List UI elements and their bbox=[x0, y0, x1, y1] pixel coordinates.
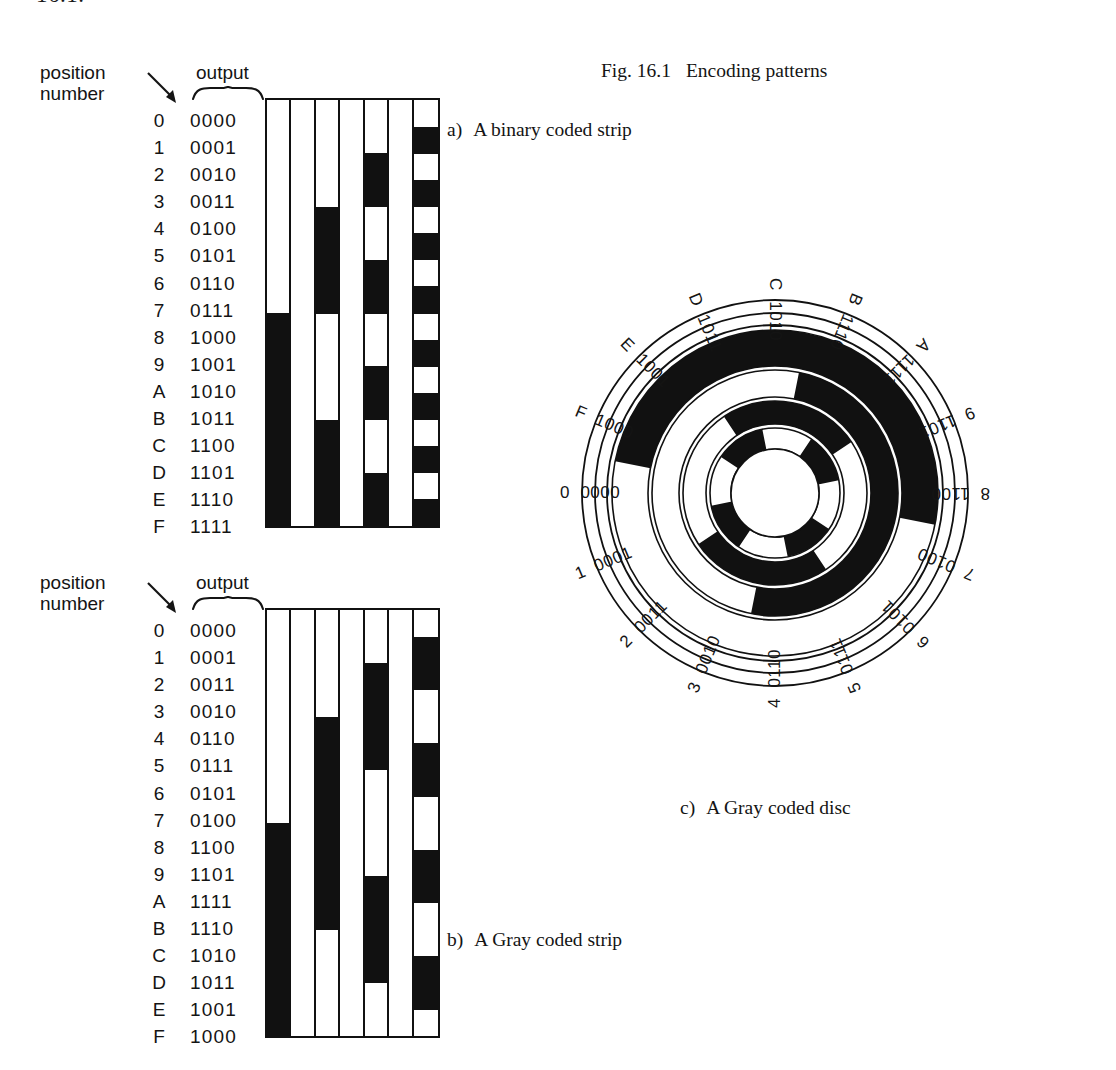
row-position-number: 2 bbox=[148, 671, 170, 698]
row-output-code: 1001 bbox=[190, 996, 237, 1023]
track-cell bbox=[365, 903, 387, 930]
track-cell bbox=[316, 743, 338, 770]
row-position-number: 4 bbox=[148, 215, 170, 242]
row-position-number: 9 bbox=[148, 351, 170, 378]
track-separator-column bbox=[291, 100, 315, 526]
track-cell bbox=[414, 233, 438, 260]
row-output-code: 1010 bbox=[190, 378, 237, 405]
gray-track-diagram bbox=[265, 608, 440, 1038]
binary-position-number-header: position number bbox=[40, 62, 106, 104]
row-output-code: 0011 bbox=[190, 671, 236, 698]
track-cell bbox=[267, 446, 289, 473]
row-output-code: 0011 bbox=[190, 188, 236, 215]
row-output-code: 0010 bbox=[190, 698, 237, 725]
row-output-code: 1000 bbox=[190, 1023, 237, 1050]
row-position-number: 7 bbox=[148, 297, 170, 324]
track-cell bbox=[365, 663, 387, 690]
track-cell bbox=[365, 499, 387, 526]
binary-output-header: output bbox=[196, 62, 249, 83]
disc-label-position: C bbox=[766, 278, 785, 291]
row-position-number: E bbox=[148, 996, 170, 1023]
track-cell bbox=[267, 420, 289, 447]
row-position-number: 1 bbox=[148, 134, 170, 161]
track-cell bbox=[316, 446, 338, 473]
track-cell bbox=[267, 956, 289, 983]
row-output-code: 0110 bbox=[190, 725, 236, 752]
row-output-code: 1110 bbox=[190, 486, 234, 513]
row-output-code: 1010 bbox=[190, 942, 237, 969]
row-position-number: 5 bbox=[148, 242, 170, 269]
track-cell bbox=[267, 850, 289, 877]
track-separator-column bbox=[389, 100, 413, 526]
row-output-code: 0001 bbox=[190, 644, 237, 671]
disc-label-code: 1010 bbox=[766, 291, 785, 341]
track-cell bbox=[414, 956, 438, 983]
track-cell bbox=[267, 340, 289, 367]
pointer-arrow-icon bbox=[146, 70, 186, 106]
row-position-number: 4 bbox=[148, 725, 170, 752]
track-bit-column bbox=[267, 100, 291, 526]
track-cell bbox=[267, 823, 289, 850]
track-cell bbox=[267, 366, 289, 393]
track-cell bbox=[365, 286, 387, 313]
track-cell bbox=[414, 286, 438, 313]
track-bit-column bbox=[414, 100, 438, 526]
row-output-code: 0000 bbox=[190, 617, 237, 644]
row-position-number: A bbox=[148, 378, 170, 405]
row-output-code: 0111 bbox=[190, 752, 234, 779]
row-position-number: 7 bbox=[148, 807, 170, 834]
row-position-number: E bbox=[148, 486, 170, 513]
row-output-code: 0111 bbox=[190, 297, 234, 324]
row-output-code: 1000 bbox=[190, 324, 237, 351]
track-cell bbox=[316, 850, 338, 877]
caption-b-letter: b) bbox=[447, 929, 463, 951]
row-position-number: 0 bbox=[148, 107, 170, 134]
track-cell bbox=[365, 180, 387, 207]
figure-title-text: Encoding patterns bbox=[686, 60, 827, 81]
track-cell bbox=[267, 499, 289, 526]
track-separator-column bbox=[389, 610, 413, 1036]
row-position-number: F bbox=[148, 1023, 170, 1050]
disc-sector-label: 4 0110 bbox=[765, 649, 785, 708]
track-cell bbox=[365, 153, 387, 180]
row-output-code: 0000 bbox=[190, 107, 237, 134]
figure-title: Fig. 16.1Encoding patterns bbox=[601, 60, 827, 82]
track-separator-column bbox=[291, 610, 315, 1036]
row-position-number: C bbox=[148, 942, 170, 969]
track-cell bbox=[414, 340, 438, 367]
page-number-fragment: 16.1. bbox=[36, 0, 85, 8]
row-position-number: 3 bbox=[148, 698, 170, 725]
row-output-code: 0101 bbox=[190, 780, 237, 807]
row-position-number: 9 bbox=[148, 861, 170, 888]
track-cell bbox=[365, 956, 387, 983]
track-cell bbox=[316, 286, 338, 313]
disc-label-code: 0000 bbox=[570, 483, 620, 502]
row-output-code: 0101 bbox=[190, 242, 237, 269]
caption-b: b)A Gray coded strip bbox=[447, 929, 622, 951]
disc-sector-label: 8 1100 bbox=[931, 483, 990, 503]
track-cell bbox=[365, 876, 387, 903]
track-cell bbox=[365, 393, 387, 420]
row-position-number: 8 bbox=[148, 324, 170, 351]
disc-label-position: 0 bbox=[560, 483, 570, 502]
row-position-number: B bbox=[148, 405, 170, 432]
row-output-code: 1111 bbox=[190, 513, 233, 540]
track-cell bbox=[414, 743, 438, 770]
track-bit-column bbox=[414, 610, 438, 1036]
track-cell bbox=[414, 983, 438, 1010]
row-output-code: 0110 bbox=[190, 270, 236, 297]
row-position-number: 1 bbox=[148, 644, 170, 671]
row-output-code: 0010 bbox=[190, 161, 237, 188]
row-output-code: 0001 bbox=[190, 134, 237, 161]
caption-b-text: A Gray coded strip bbox=[474, 929, 622, 950]
row-position-number: F bbox=[148, 513, 170, 540]
track-cell bbox=[267, 930, 289, 957]
row-position-number: B bbox=[148, 915, 170, 942]
track-separator-column bbox=[340, 610, 364, 1036]
track-cell bbox=[316, 717, 338, 744]
track-cell bbox=[365, 930, 387, 957]
output-brace-icon bbox=[192, 596, 264, 610]
disc-label-position: 4 bbox=[765, 698, 784, 708]
track-cell bbox=[316, 473, 338, 500]
disc-sector-label: C 1010 bbox=[765, 278, 785, 341]
